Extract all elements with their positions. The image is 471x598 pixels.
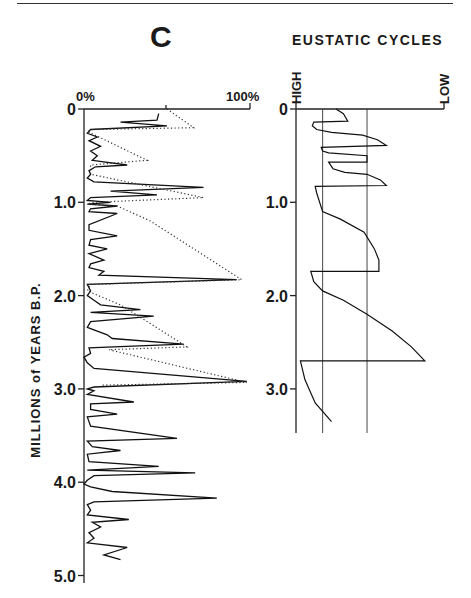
eustatic-y-tick-label: 2.0	[266, 288, 288, 305]
figure-canvas: 0% 100% 01.02.03.04.05.0 MILLIONS of YEA…	[0, 0, 471, 598]
percent-dotted-line	[87, 109, 246, 385]
eustatic-high-label: HIGH	[289, 72, 304, 105]
eustatic-cycles-chart: HIGH LOW 01.02.03.0	[266, 72, 452, 434]
left-y-ticks: 01.02.03.04.05.0	[54, 101, 84, 585]
eustatic-y-tick-label: 0	[279, 101, 288, 118]
x-tick-label-100pct: 100%	[226, 89, 260, 104]
left-y-tick-label: 3.0	[54, 381, 76, 398]
left-y-tick-label: 2.0	[54, 288, 76, 305]
y-axis-label: MILLIONS of YEARS B.P.	[28, 282, 43, 457]
eustatic-low-label: LOW	[437, 73, 452, 104]
percent-solid-line	[84, 114, 247, 560]
left-y-tick-label: 4.0	[54, 474, 76, 491]
left-y-tick-label: 5.0	[54, 568, 76, 585]
eustatic-y-tick-label: 1.0	[266, 194, 288, 211]
left-y-tick-label: 0	[67, 101, 76, 118]
left-y-tick-label: 1.0	[54, 194, 76, 211]
x-tick-label-0pct: 0%	[76, 89, 95, 104]
eustatic-curve	[300, 109, 424, 422]
percent-chart: 0% 100% 01.02.03.04.05.0 MILLIONS of YEA…	[28, 89, 260, 585]
eustatic-y-ticks: 01.02.03.0	[266, 101, 296, 398]
eustatic-y-tick-label: 3.0	[266, 381, 288, 398]
